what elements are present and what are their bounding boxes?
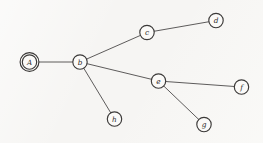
graph-edge-b-c bbox=[86, 35, 141, 59]
graph-node-f[interactable]: f bbox=[234, 80, 248, 94]
graph-node-e[interactable]: e bbox=[151, 74, 165, 88]
node-label-b: b bbox=[78, 58, 83, 67]
node-label-c: c bbox=[145, 28, 149, 37]
nodes-layer: Abcdefgh bbox=[20, 13, 249, 131]
graph-node-h[interactable]: h bbox=[107, 112, 121, 126]
graph-node-b[interactable]: b bbox=[73, 55, 87, 69]
graph-edge-c-d bbox=[154, 22, 210, 32]
graph-node-g[interactable]: g bbox=[197, 117, 211, 131]
graph-edge-e-g bbox=[163, 86, 199, 120]
node-label-h: h bbox=[112, 115, 117, 124]
graph-canvas: Abcdefgh bbox=[0, 0, 263, 143]
node-label-g: g bbox=[202, 120, 207, 129]
graph-edge-e-f bbox=[165, 81, 234, 86]
node-label-A: A bbox=[26, 58, 32, 67]
graph-diagram: Abcdefgh bbox=[0, 0, 263, 143]
graph-node-A[interactable]: A bbox=[20, 53, 39, 72]
node-label-d: d bbox=[214, 16, 219, 25]
edges-layer bbox=[39, 22, 235, 120]
graph-edge-b-h bbox=[84, 68, 111, 113]
node-label-e: e bbox=[156, 77, 161, 86]
graph-node-d[interactable]: d bbox=[209, 13, 223, 27]
graph-node-c[interactable]: c bbox=[140, 25, 154, 39]
graph-edge-b-e bbox=[87, 64, 152, 80]
